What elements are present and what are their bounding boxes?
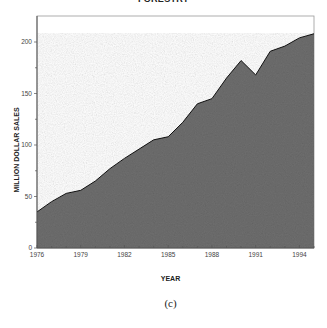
plot-area: 0501001502001976197919821985198819911994 [21, 16, 314, 258]
area-fill [37, 34, 314, 248]
x-tick-label: 1985 [161, 251, 176, 258]
y-tick-label: 50 [25, 193, 33, 200]
x-tick-label: 1979 [74, 251, 89, 258]
x-tick-label: 1976 [30, 251, 45, 258]
area-chart: 0501001502001976197919821985198819911994 [0, 0, 327, 328]
x-tick-label: 1991 [248, 251, 263, 258]
x-tick-label: 1982 [117, 251, 132, 258]
y-tick-label: 200 [21, 38, 32, 45]
y-tick-label: 100 [21, 141, 32, 148]
y-tick-label: 150 [21, 90, 32, 97]
x-tick-label: 1988 [205, 251, 220, 258]
x-tick-label: 1994 [292, 251, 307, 258]
